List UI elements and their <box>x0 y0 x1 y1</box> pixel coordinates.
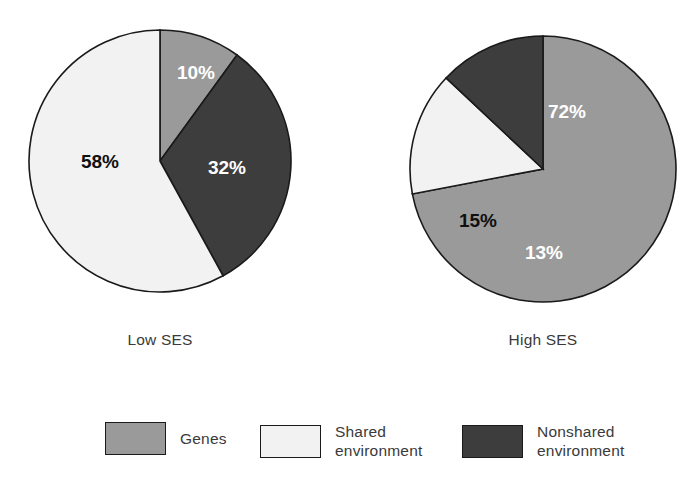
slice-value-label: 13% <box>525 242 563 263</box>
pie-caption-high-ses: High SES <box>433 331 653 349</box>
slice-value-label: 15% <box>459 210 497 231</box>
legend-swatch-nonshared-environment <box>462 425 523 458</box>
legend-item-genes[interactable]: Genes <box>105 422 227 455</box>
pie-chart-figure: 10%32%58%Low SES72%15%13%High SES GenesS… <box>0 0 682 489</box>
legend-swatch-shared-environment <box>260 425 321 458</box>
legend-label: Nonshared environment <box>537 422 625 460</box>
legend-item-shared-environment[interactable]: Shared environment <box>260 422 423 460</box>
legend-swatch-genes <box>105 422 166 455</box>
slice-value-label: 72% <box>548 101 586 122</box>
chart-legend: GenesShared environmentNonshared environ… <box>0 414 682 476</box>
legend-item-nonshared-environment[interactable]: Nonshared environment <box>462 422 625 460</box>
legend-label: Shared environment <box>335 422 423 460</box>
legend-label: Genes <box>180 429 227 448</box>
